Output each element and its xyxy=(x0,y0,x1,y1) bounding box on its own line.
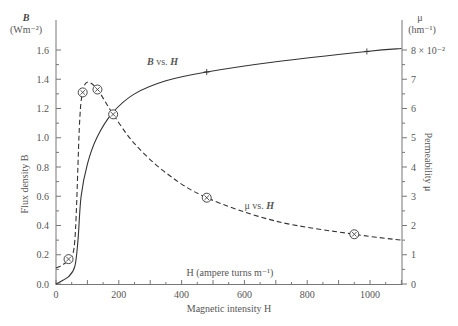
b-vs-h-curve xyxy=(56,49,401,284)
mu-vs-h-label: μ vs. H xyxy=(244,200,275,211)
y-right-unit-symbol: μ xyxy=(417,12,422,23)
y-right-tick-label: 0 xyxy=(411,279,416,290)
circle-x-marker xyxy=(202,193,211,202)
circle-x-marker xyxy=(64,255,73,264)
y-right-tick-label: 7 xyxy=(411,74,416,85)
mu-vs-h-curve xyxy=(56,82,401,268)
y-left-label: Flux density B xyxy=(19,154,30,213)
x-tick-label: 1000 xyxy=(360,289,380,300)
y-left-tick-label: 0.4 xyxy=(37,220,50,231)
circle-x-marker xyxy=(350,230,359,239)
y-left-ticks: 0.00.20.40.60.81.01.21.41.6 xyxy=(37,45,62,290)
circle-x-marker xyxy=(93,85,102,94)
y-right-tick-label: 5 xyxy=(411,132,416,143)
y-right-unit: (hm⁻¹) xyxy=(408,24,436,36)
circle-x-marker xyxy=(109,110,118,119)
x-label: Magnetic intensity H xyxy=(187,303,271,314)
y-right-tick-label: 1 xyxy=(411,249,416,260)
x-tick-label: 0 xyxy=(54,289,59,300)
y-left-unit-symbol: B xyxy=(22,12,30,23)
y-left-tick-label: 1.2 xyxy=(37,103,50,114)
bh-permeability-chart: 02004006008001000 0.00.20.40.60.81.01.21… xyxy=(0,0,458,326)
y-right-tick-label: 6 xyxy=(411,103,416,114)
y-right-tick-label: 8 × 10⁻² xyxy=(411,45,445,56)
y-left-tick-label: 1.0 xyxy=(37,132,50,143)
y-right-tick-label: 3 xyxy=(411,191,416,202)
y-right-label: Permeability μ xyxy=(423,133,434,192)
circle-x-marker xyxy=(78,88,87,97)
plus-marker xyxy=(364,48,370,54)
y-left-tick-label: 1.6 xyxy=(37,45,50,56)
annotations: B vs. Hμ vs. H xyxy=(146,56,275,212)
plus-marker xyxy=(204,69,210,75)
x-tick-label: 600 xyxy=(237,289,252,300)
y-left-tick-label: 0.0 xyxy=(37,279,50,290)
y-left-tick-label: 0.6 xyxy=(37,191,50,202)
x-tick-label: 400 xyxy=(174,289,189,300)
x-tick-label: 800 xyxy=(300,289,315,300)
x-tick-label: 200 xyxy=(111,289,126,300)
y-right-tick-label: 4 xyxy=(411,162,416,173)
x-ticks: 02004006008001000 xyxy=(54,280,402,300)
y-left-tick-label: 1.4 xyxy=(37,74,50,85)
y-left-unit: (Wm⁻²) xyxy=(10,24,42,36)
axes xyxy=(56,20,402,285)
b-vs-h-label: B vs. H xyxy=(146,56,179,67)
series-layer xyxy=(56,48,401,284)
y-right-tick-label: 2 xyxy=(411,220,416,231)
x-label-inner: H (ampere turns m⁻¹) xyxy=(187,267,274,279)
y-left-tick-label: 0.8 xyxy=(37,162,50,173)
y-left-tick-label: 0.2 xyxy=(37,249,50,260)
